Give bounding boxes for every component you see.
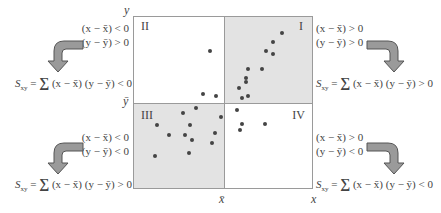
y-axis-label: y	[124, 3, 129, 18]
bottom-right-formula: Sxy = ∑ (x − x̄) (y − ȳ) < 0	[316, 176, 433, 193]
data-point	[201, 92, 205, 96]
data-point	[235, 108, 239, 112]
bottom-right-cond-y: (y − ȳ) < 0	[316, 144, 363, 158]
data-point	[263, 122, 267, 126]
data-point	[271, 40, 275, 44]
bottom-right-cond-x: (x − x̄) > 0	[316, 130, 363, 144]
data-point	[194, 106, 198, 110]
data-point	[167, 133, 171, 137]
bottom-left-arrow-icon	[46, 141, 84, 175]
x-axis-label: x	[311, 192, 316, 207]
top-left-formula: Sxy = ∑ (x − x̄) (y − ȳ) < 0	[15, 75, 132, 92]
data-point	[237, 86, 241, 90]
data-point	[271, 52, 275, 56]
data-point	[238, 128, 242, 132]
bottom-left-cond-x: (x − x̄) < 0	[82, 130, 129, 144]
top-right-formula: Sxy = ∑ (x − x̄) (y − ȳ) > 0	[316, 75, 433, 92]
top-right-arrow-icon	[366, 39, 406, 73]
top-left-cond-y: (y − ȳ) > 0	[82, 35, 129, 49]
data-point	[181, 111, 185, 115]
data-point	[183, 133, 187, 137]
data-point	[188, 123, 192, 127]
bottom-left-cond-y: (y − ȳ) < 0	[82, 144, 129, 158]
data-point	[213, 131, 217, 135]
bottom-left-formula: Sxy = ∑ (x − x̄) (y − ȳ) > 0	[15, 176, 132, 193]
data-point	[208, 49, 212, 53]
bottom-right-arrow-icon	[366, 141, 406, 175]
data-point	[219, 115, 223, 119]
top-left-cond-x: (x − x̄) < 0	[82, 21, 129, 35]
data-point	[155, 123, 159, 127]
top-left-conditions: (x − x̄) < 0 (y − ȳ) > 0	[82, 21, 129, 49]
data-point	[240, 96, 244, 100]
bottom-right-conditions: (x − x̄) > 0 (y − ȳ) < 0	[316, 130, 363, 158]
data-point	[246, 94, 250, 98]
data-point	[190, 138, 194, 142]
bottom-left-conditions: (x − x̄) < 0 (y − ȳ) < 0	[82, 130, 129, 158]
data-point	[264, 49, 268, 53]
x-mean-label: x̄	[219, 192, 224, 207]
data-point	[214, 94, 218, 98]
data-point	[260, 67, 264, 71]
top-right-cond-x: (x − x̄) > 0	[316, 21, 363, 35]
data-point	[153, 154, 157, 158]
data-point	[280, 31, 284, 35]
top-right-cond-y: (y − ȳ) > 0	[316, 35, 363, 49]
y-mean-label: ȳ	[123, 94, 128, 109]
data-point	[244, 80, 248, 84]
data-point	[210, 141, 214, 145]
top-left-arrow-icon	[46, 39, 84, 73]
data-point	[240, 122, 244, 126]
top-right-conditions: (x − x̄) > 0 (y − ȳ) > 0	[316, 21, 363, 49]
data-point	[187, 151, 191, 155]
data-point	[246, 67, 250, 71]
